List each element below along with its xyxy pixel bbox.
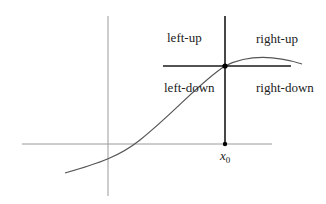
diagram-canvas: left-up right-up left-down right-down x0 (0, 0, 326, 204)
label-left-up: left-up (167, 30, 202, 45)
function-curve (65, 57, 302, 173)
x0-point (223, 142, 227, 146)
label-right-down: right-down (256, 80, 314, 95)
tangent-point (222, 63, 227, 68)
label-right-up: right-up (256, 31, 298, 46)
label-left-down: left-down (164, 80, 215, 95)
x0-label: x0 (219, 148, 231, 165)
